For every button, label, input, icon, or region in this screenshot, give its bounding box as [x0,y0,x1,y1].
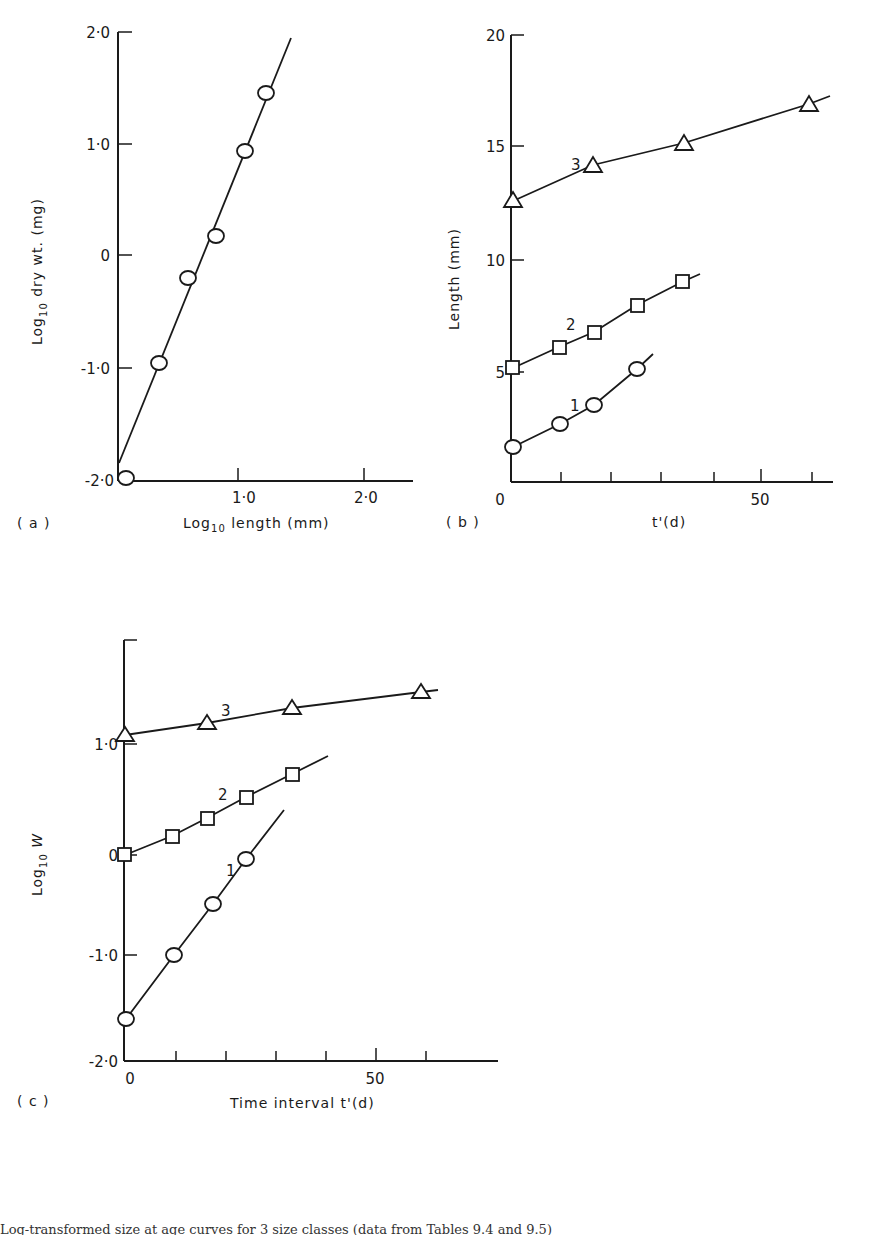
a-ytick-label: 0 [100,247,110,265]
c-square-point [201,812,214,825]
b-square-point [631,299,644,312]
c-ytick-label: 1·0 [94,736,118,754]
a-ytick-label: -1·0 [81,360,110,378]
panel-b: 20 15 10 5 0 50 3 2 1 Length (mm) t'(d) … [446,27,833,530]
b-triangle-point [584,157,602,172]
c-series-3-label: 3 [221,702,231,720]
c-y-axis-title: Log10 W [29,833,49,896]
c-circle-point [118,1012,134,1026]
a-data-point [237,144,253,158]
panel-a: 2·0 1·0 0 -1·0 -2·0 1·0 2·0 Log10 dry wt… [17,24,413,534]
c-series-3-line [125,690,438,735]
c-square-point [118,848,131,861]
c-square-point [240,791,253,804]
a-data-point [180,271,196,285]
figure-caption: Log-transformed size at age curves for 3… [0,1222,871,1235]
b-series-3-label: 3 [571,156,581,174]
b-y-axis-title: Length (mm) [446,228,462,330]
b-ytick-label: 10 [486,252,505,270]
b-ytick-label: 15 [486,138,505,156]
c-square-point [286,768,299,781]
b-panel-label: ( b ) [446,514,480,530]
c-xtick-label: 0 [125,1070,135,1088]
c-square-point [166,830,179,843]
c-series-2-label: 2 [218,786,228,804]
figure-canvas: 2·0 1·0 0 -1·0 -2·0 1·0 2·0 Log10 dry wt… [0,0,871,1235]
b-triangle-point [504,192,522,207]
b-ytick-label: 20 [486,27,505,45]
c-circle-point [238,852,254,866]
b-series-2-line [513,274,700,368]
c-circle-point [166,948,182,962]
b-circle-point [586,398,602,412]
c-panel-label: ( c ) [17,1093,50,1109]
a-ytick-label: -2·0 [85,472,114,490]
c-series-1-line [126,810,284,1019]
a-xtick-label: 2·0 [354,489,378,507]
c-circle-point [205,897,221,911]
panel-c: 1·0 0 -1·0 -2·0 0 50 3 2 1 Log10 W Time … [17,640,498,1111]
b-triangle-point [800,96,818,111]
c-ytick-label: -2·0 [89,1053,118,1071]
b-triangle-point [675,135,693,150]
a-data-point [258,86,274,100]
b-square-point [588,326,601,339]
c-ytick-label: 0 [108,847,118,865]
a-data-point [151,356,167,370]
a-y-axis-title: Log10 dry wt. (mg) [29,198,49,345]
a-ytick-label: 1·0 [86,136,110,154]
b-series-3-line [513,96,830,201]
c-series-1-label: 1 [226,862,236,880]
b-square-point [553,341,566,354]
b-series-1-label: 1 [570,397,580,415]
c-ytick-label: -1·0 [89,947,118,965]
a-data-point [208,229,224,243]
a-x-axis-title: Log10 length (mm) [183,515,329,534]
b-x-axis-title: t'(d) [652,514,686,530]
c-xtick-label: 50 [365,1070,384,1088]
a-data-point [118,471,134,485]
a-xtick-label: 1·0 [232,489,256,507]
b-xtick-label: 50 [750,491,769,509]
b-square-point [506,361,519,374]
b-ytick-label: 5 [495,364,505,382]
c-x-axis-title: Time interval t'(d) [229,1095,375,1111]
b-square-point [676,275,689,288]
b-xtick-label: 0 [495,491,505,509]
b-circle-point [629,362,645,376]
a-fit-line [119,38,291,463]
b-series-2-label: 2 [566,316,576,334]
b-circle-point [552,417,568,431]
a-panel-label: ( a ) [17,515,50,531]
a-ytick-label: 2·0 [86,24,110,42]
b-circle-point [505,440,521,454]
